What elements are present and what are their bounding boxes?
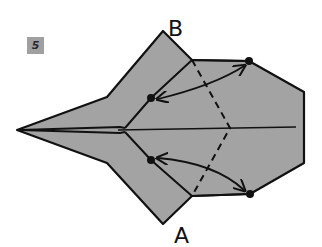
dot-lower-inner — [147, 156, 155, 164]
label-a: A — [174, 223, 189, 247]
dot-upper-outer — [245, 57, 253, 65]
dot-lower-outer — [246, 190, 254, 198]
origami-diagram: B A — [0, 0, 322, 247]
dot-upper-inner — [147, 94, 155, 102]
label-b: B — [168, 16, 183, 41]
